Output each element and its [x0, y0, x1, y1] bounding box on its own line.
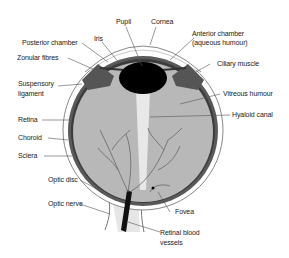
label-retinal-blood-vessels: Retinal blood	[160, 229, 200, 237]
label-ciliary-muscle: Ciliary muscle	[217, 60, 259, 68]
label-vitreous-humour: Vitreous humour	[223, 90, 273, 98]
label-anterior-chamber: Anterior chamber	[192, 30, 244, 38]
label-cornea: Cornea	[151, 18, 173, 26]
label-anterior-chamber-sub: (aqueous humour)	[192, 39, 248, 47]
fovea	[152, 187, 155, 190]
label-iris: Iris	[94, 35, 103, 43]
label-hyaloid-canal: Hyaloid canal	[232, 111, 273, 119]
label-pupil: Pupil	[116, 18, 131, 26]
label-fovea: Fovea	[175, 208, 194, 216]
label-choroid: Choroid	[18, 134, 42, 142]
label-optic-nerve: Optic nerve	[48, 200, 83, 208]
label-retinal-blood-vessels-sub: vessels	[160, 239, 183, 247]
lens	[119, 62, 167, 94]
label-retina: Retina	[18, 116, 38, 124]
label-ligament: ligament	[18, 90, 44, 98]
label-zonular-fibres: Zonular fibres	[17, 54, 58, 62]
label-suspensory: Suspensory	[18, 80, 54, 88]
label-sclera: Sclera	[18, 152, 37, 160]
label-optic-disc: Optic disc	[48, 176, 78, 184]
label-posterior-chamber: Posterior chamber	[22, 39, 78, 47]
